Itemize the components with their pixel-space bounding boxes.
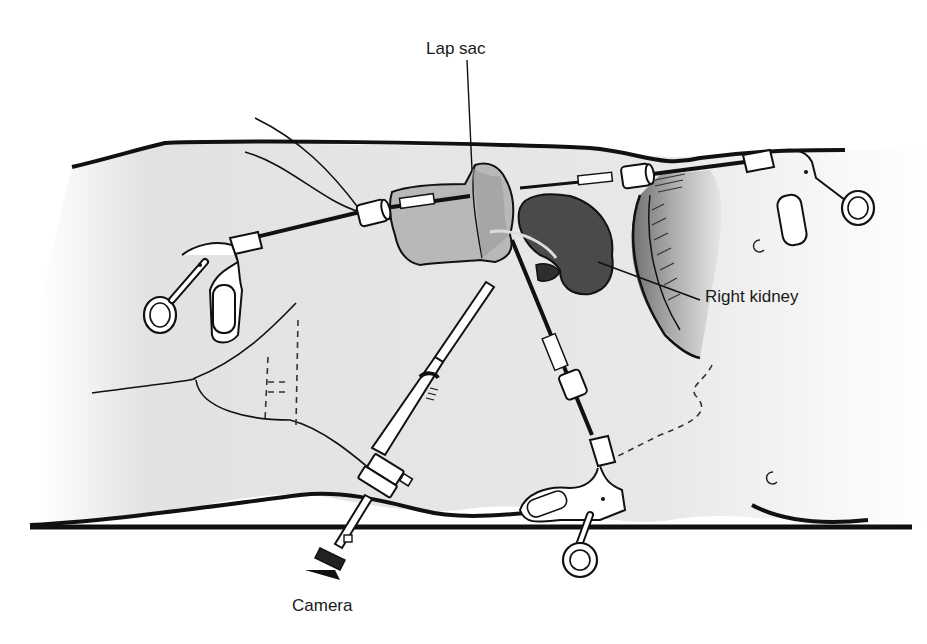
diagram-canvas: Lap sac Right kidney Camera xyxy=(0,0,927,644)
label-right-kidney: Right kidney xyxy=(705,287,799,307)
trocar-right xyxy=(621,163,656,189)
label-lap-sac: Lap sac xyxy=(426,39,486,59)
label-camera: Camera xyxy=(292,596,352,616)
